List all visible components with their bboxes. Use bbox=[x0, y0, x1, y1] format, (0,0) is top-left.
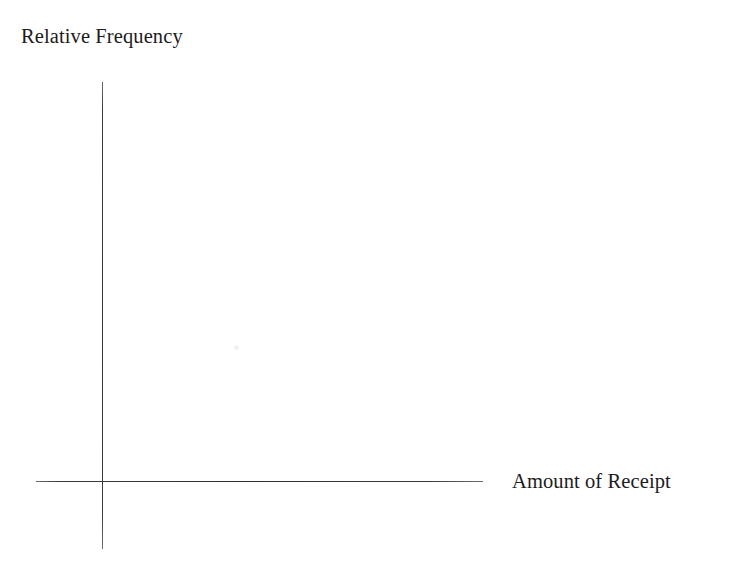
scan-artifact-speckle bbox=[234, 345, 239, 350]
y-axis-label: Relative Frequency bbox=[21, 26, 183, 47]
figure-canvas: Relative Frequency Amount of Receipt bbox=[0, 0, 756, 564]
x-axis-line bbox=[36, 481, 483, 482]
y-axis-line bbox=[102, 82, 103, 549]
x-axis-label: Amount of Receipt bbox=[512, 471, 671, 492]
